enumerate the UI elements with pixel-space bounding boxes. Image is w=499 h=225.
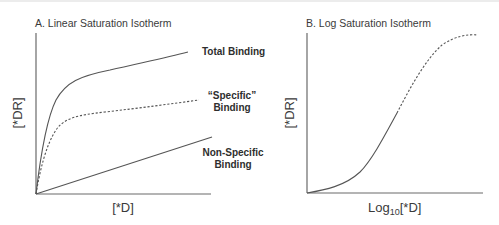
log-isotherm-curve-solid — [307, 113, 397, 193]
panel-a-x-label: [*D] — [112, 200, 134, 215]
panel-b-y-label: [*DR] — [282, 97, 297, 128]
panel-a-y-label: [*DR] — [10, 97, 25, 128]
panel-a-linear-isotherm: A. Linear Saturation Isotherm [*DR] [*D]… — [10, 17, 265, 215]
total-binding-curve — [36, 52, 188, 194]
total-binding-label: Total Binding — [202, 46, 265, 57]
panel-b-x-label-tail: [*D] — [400, 200, 422, 215]
panel-b-x-label-subscript: 10 — [390, 207, 400, 217]
specific-binding-label-line2: Binding — [213, 102, 250, 113]
nonspecific-binding-label-line1: Non-Specific — [202, 147, 264, 158]
log-isotherm-curve-dashed — [397, 35, 477, 113]
nonspecific-binding-line — [36, 137, 212, 194]
panel-b-log-isotherm: B. Log Saturation Isotherm [*DR] Log10[*… — [282, 17, 483, 217]
nonspecific-binding-label-line2: Binding — [214, 159, 251, 170]
panel-b-x-label-base: Log — [368, 200, 390, 215]
specific-binding-curve — [36, 100, 199, 194]
saturation-isotherm-diagram: A. Linear Saturation Isotherm [*DR] [*D]… — [0, 0, 499, 225]
panel-b-x-label: Log10[*D] — [368, 200, 421, 217]
panel-a-title: A. Linear Saturation Isotherm — [35, 17, 172, 29]
specific-binding-label-line1: “Specific” — [208, 90, 256, 101]
panel-b-title: B. Log Saturation Isotherm — [306, 17, 431, 29]
